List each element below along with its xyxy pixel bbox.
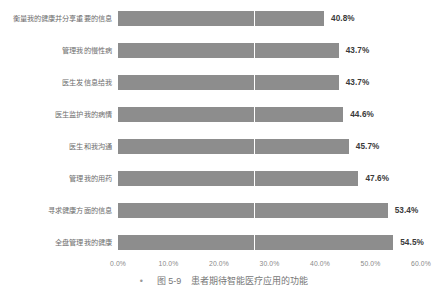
gridline [254,2,255,258]
bar [118,171,358,186]
bar-value-label: 47.6% [365,174,389,183]
bar [118,139,349,154]
bar-row: 衡量我的健康并分享重要的信息40.8% [118,11,421,26]
bar-row: 医生发信息给我43.7% [118,75,421,90]
x-axis-tick-label: 50.0% [361,260,381,267]
bar-category-label: 管理我的慢性病 [62,45,112,55]
x-axis-tick-label: 10.0% [159,260,179,267]
x-axis-tick-label: 40.0% [310,260,330,267]
bar-category-label: 医生监护我的病情 [55,109,112,119]
caption-bullet: • [140,276,143,286]
plot-area: 衡量我的健康并分享重要的信息40.8%管理我的慢性病43.7%医生发信息给我43… [118,2,421,258]
bar-value-label: 43.7% [346,78,370,87]
figure-caption: •图 5-9患者期待智能医疗应用的功能 [0,274,448,287]
bar-row: 医生和我沟通45.7% [118,139,421,154]
bar-value-label: 53.4% [395,206,419,215]
bar-category-label: 医生发信息给我 [62,77,112,87]
bar-value-label: 54.5% [400,238,424,247]
bar-category-label: 全盘管理我的健康 [55,237,112,247]
bar-row: 全盘管理我的健康54.5% [118,235,421,250]
bar-category-label: 管理我的用药 [69,173,112,183]
bar-value-label: 45.7% [356,142,380,151]
bar-value-label: 44.6% [350,110,374,119]
bar [118,235,393,250]
bar-category-label: 医生和我沟通 [69,141,112,151]
x-axis-tick-label: 60.0% [411,260,431,267]
caption-number: 图 5-9 [157,276,182,286]
x-axis-tick-label: 0.0% [110,260,126,267]
bar-row: 医生监护我的病情44.6% [118,107,421,122]
caption-text: 患者期待智能医疗应用的功能 [191,276,308,286]
bar-value-label: 43.7% [346,46,370,55]
bar-category-label: 衡量我的健康并分享重要的信息 [13,13,112,23]
bar-row: 寻求健康方面的信息53.4% [118,203,421,218]
bar-value-label: 40.8% [331,14,355,23]
bar-rows: 衡量我的健康并分享重要的信息40.8%管理我的慢性病43.7%医生发信息给我43… [118,2,421,258]
bar-row: 管理我的慢性病43.7% [118,43,421,58]
x-axis-tick-label: 30.0% [260,260,280,267]
bar-category-label: 寻求健康方面的信息 [48,205,112,215]
bar [118,107,343,122]
bar [118,11,324,26]
bar [118,75,339,90]
bar [118,43,339,58]
x-axis: 0.0%10.0%20.0%30.0%40.0%50.0%60.0% [118,258,421,272]
bar-row: 管理我的用药47.6% [118,171,421,186]
bar-chart-figure: 衡量我的健康并分享重要的信息40.8%管理我的慢性病43.7%医生发信息给我43… [0,0,448,288]
bar [118,203,388,218]
x-axis-tick-label: 20.0% [209,260,229,267]
